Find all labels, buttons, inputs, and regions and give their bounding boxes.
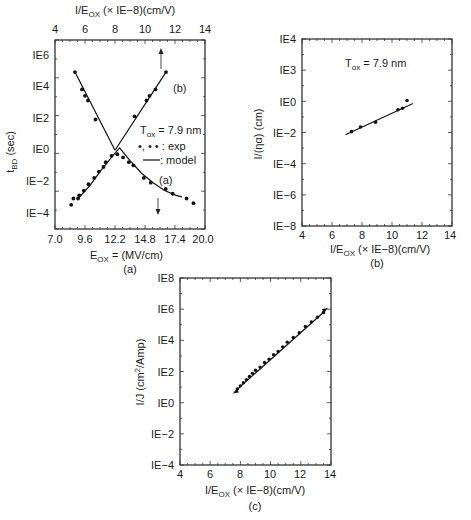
data-point	[258, 365, 261, 368]
svg-text:14: 14	[324, 468, 336, 480]
svg-text:12: 12	[416, 229, 428, 241]
chart-a-y-tick-labels: IE6 IE4 IE2 IE0 IE−2 IE−4	[26, 49, 49, 219]
svg-text:14.8: 14.8	[134, 233, 155, 245]
data-point	[298, 331, 301, 334]
data-point	[127, 160, 131, 164]
svg-text:IE−6: IE−6	[273, 189, 296, 201]
svg-text:8: 8	[237, 468, 243, 480]
data-point	[133, 114, 137, 118]
chart-b-y-tick-labels: IE4 IE3 IE0 IE−2 IE−4 IE−6 IE−8	[273, 33, 296, 232]
chart-a: I/EOX (× IE−8)(cm/V) 4 6 8 10 12 14 IE6 …	[4, 4, 214, 275]
svg-text:IE4: IE4	[32, 80, 49, 92]
svg-text:4: 4	[52, 23, 58, 35]
chart-b: IE4 IE3 IE0 IE−2 IE−4 IE−6 IE−8 4 6 8 10…	[252, 33, 456, 269]
svg-text:: model: : model	[160, 154, 196, 166]
data-point	[263, 361, 266, 364]
data-point	[272, 353, 275, 356]
data-point	[142, 176, 146, 180]
chart-b-y-axis-title: I/(ηα) (cm)	[252, 109, 264, 160]
svg-text:9.6: 9.6	[77, 233, 92, 245]
data-point	[94, 118, 98, 122]
chart-c-caption: (c)	[249, 500, 262, 512]
chart-c: IE8 IE6 IE4 IE2 IE0 IE−2 IE−4 4 6 8 10 1…	[133, 272, 336, 512]
svg-text:IE−4: IE−4	[273, 158, 296, 170]
figure: I/EOX (× IE−8)(cm/V) 4 6 8 10 12 14 IE6 …	[0, 0, 471, 520]
svg-text:IE2: IE2	[32, 112, 49, 124]
svg-text:IE−2: IE−2	[151, 428, 174, 440]
svg-text:IE−4: IE−4	[151, 459, 174, 471]
chart-b-tox-annotation: Tox = 7.9 nm	[345, 57, 406, 72]
data-point	[69, 203, 73, 207]
svg-text:IE3: IE3	[279, 64, 296, 76]
svg-text:IE2: IE2	[157, 366, 174, 378]
data-point	[164, 70, 168, 74]
svg-text:6: 6	[82, 23, 88, 35]
data-point	[405, 99, 409, 103]
svg-text:IE−2: IE−2	[273, 127, 296, 139]
svg-text:IE8: IE8	[157, 272, 174, 284]
chart-b-x-tick-labels: 4 6 8 10 12 14	[299, 229, 456, 241]
svg-text:IE−4: IE−4	[26, 207, 49, 219]
data-point	[148, 94, 152, 98]
data-point	[401, 106, 405, 110]
data-point	[164, 187, 168, 191]
data-point	[396, 108, 400, 112]
svg-text:6: 6	[329, 229, 335, 241]
svg-text:17.4: 17.4	[164, 233, 185, 245]
chart-c-x-tick-labels: 4 6 8 10 12 14	[177, 468, 336, 480]
svg-text:•, • • : exp: •, • • : exp	[138, 140, 186, 152]
svg-text:IE0: IE0	[32, 143, 49, 155]
svg-text:14: 14	[199, 23, 211, 35]
data-point	[86, 99, 90, 103]
chart-a-caption: (a)	[123, 263, 136, 275]
svg-text:IE4: IE4	[279, 33, 296, 45]
data-point	[145, 99, 149, 103]
data-point	[350, 130, 354, 134]
chart-c-y-axis-title: I/J (cm2/Amp)	[133, 339, 146, 406]
data-point	[281, 345, 284, 348]
data-point	[82, 189, 86, 193]
chart-a-curve-b-label: (b)	[173, 82, 186, 94]
data-point	[239, 384, 242, 387]
svg-text:10: 10	[386, 229, 398, 241]
data-point	[154, 88, 158, 92]
svg-text:4: 4	[177, 468, 183, 480]
svg-text:IE6: IE6	[157, 303, 174, 315]
chart-a-bottom-axis-title: EOX = (MV/cm)	[90, 249, 163, 264]
data-point	[72, 197, 76, 201]
data-point	[267, 358, 270, 361]
chart-c-x-axis-title: I/EOX (× IE−8)(cm/V)	[205, 484, 305, 499]
data-point	[171, 192, 175, 196]
svg-text:10: 10	[139, 23, 151, 35]
data-point	[276, 350, 279, 353]
data-point	[121, 156, 125, 160]
chart-c-y-tick-labels: IE8 IE6 IE4 IE2 IE0 IE−2 IE−4	[151, 272, 174, 471]
svg-text:IE−2: IE−2	[26, 175, 49, 187]
svg-text:12: 12	[294, 468, 306, 480]
data-point	[192, 201, 196, 205]
data-point	[304, 325, 307, 328]
arrow-down-icon	[156, 198, 161, 215]
svg-text:IE−8: IE−8	[273, 220, 296, 232]
svg-text:10: 10	[264, 468, 276, 480]
data-point	[115, 152, 119, 156]
chart-a-top-tick-labels: 4 6 8 10 12 14	[52, 23, 211, 35]
data-point	[310, 320, 313, 323]
svg-text:12: 12	[169, 23, 181, 35]
data-point	[292, 336, 295, 339]
svg-text:6: 6	[207, 468, 213, 480]
chart-a-legend: •, • • : exp : model	[138, 140, 196, 166]
data-point	[185, 197, 189, 201]
svg-text:IE4: IE4	[157, 334, 174, 346]
data-point	[316, 316, 319, 319]
data-point	[73, 70, 77, 74]
data-point	[242, 381, 245, 384]
data-point	[286, 340, 289, 343]
data-point	[374, 120, 378, 124]
data-point	[359, 125, 363, 129]
svg-text:8: 8	[359, 229, 365, 241]
svg-text:20.0: 20.0	[192, 233, 213, 245]
data-point	[251, 372, 254, 375]
svg-text:14: 14	[444, 229, 456, 241]
data-point	[248, 375, 251, 378]
